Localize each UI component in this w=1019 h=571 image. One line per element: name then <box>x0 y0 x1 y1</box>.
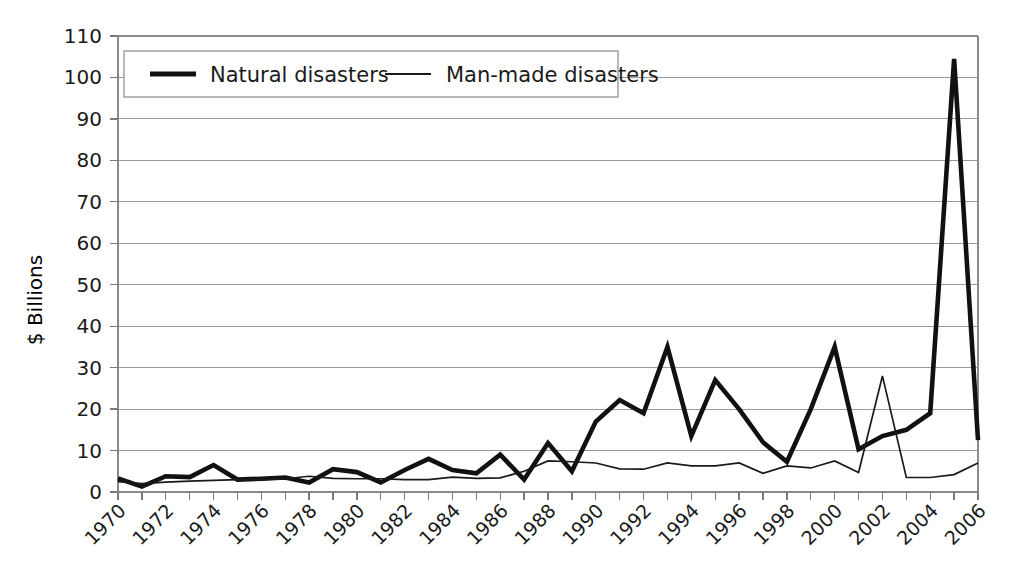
y-tick-label-110: 110 <box>64 24 102 48</box>
data-series <box>118 59 978 487</box>
x-tick-label-1994: 1994 <box>653 499 703 549</box>
x-tick-label-1996: 1996 <box>701 499 751 549</box>
x-tick-label-1998: 1998 <box>749 499 799 549</box>
x-tick-label-1988: 1988 <box>510 499 560 549</box>
x-axis-tick-labels: 1970197219741976197819801982198419861988… <box>80 499 990 549</box>
plot-frame <box>118 36 978 492</box>
x-tick-label-1972: 1972 <box>128 499 178 549</box>
y-tick-label-90: 90 <box>77 107 102 131</box>
y-tick-label-0: 0 <box>89 480 102 504</box>
y-tick-label-60: 60 <box>77 231 102 255</box>
x-tick-label-1976: 1976 <box>223 499 273 549</box>
y-tick-label-30: 30 <box>77 356 102 380</box>
series-line-natural <box>118 59 978 487</box>
disaster-losses-line-chart: 0102030405060708090100110 19701972197419… <box>0 0 1019 571</box>
x-axis-ticks <box>118 492 978 500</box>
x-tick-label-1986: 1986 <box>462 499 512 549</box>
x-tick-label-2002: 2002 <box>845 499 895 549</box>
y-tick-label-80: 80 <box>77 148 102 172</box>
legend-label-natural: Natural disasters <box>210 63 389 87</box>
series-line-manmade <box>118 376 978 484</box>
x-tick-label-2000: 2000 <box>797 499 847 549</box>
x-tick-label-1990: 1990 <box>558 499 608 549</box>
x-tick-label-1974: 1974 <box>176 499 226 549</box>
y-tick-label-100: 100 <box>64 65 102 89</box>
x-tick-label-1992: 1992 <box>606 499 656 549</box>
y-axis-tick-labels: 0102030405060708090100110 <box>64 24 102 504</box>
x-tick-label-2004: 2004 <box>892 499 942 549</box>
x-tick-label-1978: 1978 <box>271 499 321 549</box>
x-tick-label-1984: 1984 <box>415 499 465 549</box>
legend-label-manmade: Man-made disasters <box>446 63 659 87</box>
y-tick-label-50: 50 <box>77 273 102 297</box>
x-tick-label-2006: 2006 <box>940 499 990 549</box>
chart-legend: Natural disasters Man-made disasters <box>124 51 659 97</box>
y-tick-label-70: 70 <box>77 190 102 214</box>
y-axis-title: $ Billions <box>23 255 47 345</box>
y-tick-label-10: 10 <box>77 439 102 463</box>
y-tick-label-40: 40 <box>77 314 102 338</box>
chart-canvas: 0102030405060708090100110 19701972197419… <box>0 0 1019 571</box>
x-tick-label-1980: 1980 <box>319 499 369 549</box>
gridlines <box>118 36 978 451</box>
y-axis-ticks <box>110 36 118 492</box>
x-tick-label-1982: 1982 <box>367 499 417 549</box>
x-tick-label-1970: 1970 <box>80 499 130 549</box>
y-tick-label-20: 20 <box>77 397 102 421</box>
